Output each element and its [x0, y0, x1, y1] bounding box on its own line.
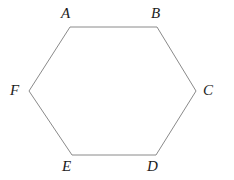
vertex-label-b: B: [151, 6, 160, 21]
hexagon-diagram-canvas: [0, 0, 234, 180]
vertex-label-f: F: [10, 83, 19, 98]
hexagon-figure: A B C D E F: [0, 0, 234, 180]
vertex-label-d: D: [147, 159, 158, 174]
vertex-label-e: E: [62, 159, 71, 174]
hexagon-outline: [29, 27, 196, 155]
vertex-label-a: A: [61, 6, 70, 21]
vertex-label-c: C: [203, 83, 213, 98]
